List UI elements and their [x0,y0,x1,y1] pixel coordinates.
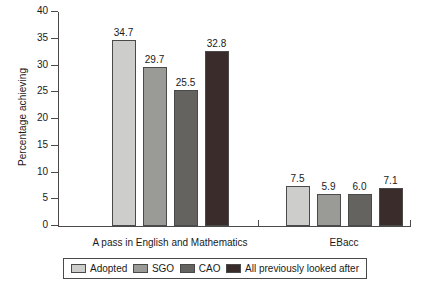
y-axis-tick-label: 40 [37,4,48,17]
bar-value-label: 32.8 [207,38,226,50]
y-axis-tick-label: 15 [37,138,48,151]
y-axis-tick: 5 [51,198,58,199]
y-axis-tick-label: 20 [37,111,48,124]
x-axis-separator [58,220,59,227]
y-axis-tick-label: 5 [42,191,48,204]
bar-value-label: 34.7 [114,27,133,39]
bar-value-label: 5.9 [322,181,336,193]
y-axis-tick-label: 10 [37,165,48,178]
y-axis-tick: 15 [51,145,58,146]
legend-item: All previously looked after [226,263,359,275]
legend-swatch [226,264,241,273]
plot-area: 0510152025303540 34.729.725.532.87.55.96… [58,8,411,230]
bar-value-label: 29.7 [145,54,164,66]
y-axis-tick-label: 25 [37,84,48,97]
x-axis-line [58,226,411,227]
bar: 25.5 [174,90,198,226]
x-axis-separator [410,220,411,227]
y-axis-tick-label: 30 [37,58,48,71]
y-axis-tick-label: 35 [37,31,48,44]
bar: 7.5 [286,186,310,226]
y-axis-line [58,12,59,227]
y-axis-tick: 35 [51,38,58,39]
y-axis-tick: 40 [51,11,58,12]
y-axis-tick: 0 [51,225,58,226]
y-axis-tick-label: 0 [42,218,48,231]
y-axis-tick: 10 [51,172,58,173]
bar-chart: Percentage achieving 0510152025303540 34… [0,0,425,291]
legend-item: Adopted [71,263,127,275]
bar-value-label: 7.5 [291,173,305,185]
legend-label: Adopted [90,263,127,275]
legend-label: CAO [199,263,221,275]
bar-value-label: 6.0 [353,181,367,193]
y-axis-title: Percentage achieving [16,2,30,232]
bar: 32.8 [205,51,229,226]
bar-value-label: 7.1 [384,175,398,187]
x-axis-group-label: A pass in English and Mathematics [92,236,247,249]
bar: 7.1 [379,188,403,226]
bar-value-label: 25.5 [176,77,195,89]
bar: 29.7 [143,67,167,226]
legend-label: All previously looked after [245,263,359,275]
y-axis-tick: 30 [51,65,58,66]
legend-swatch [180,264,195,273]
bar: 34.7 [112,40,136,226]
legend-swatch [133,264,148,273]
legend-label: SGO [152,263,174,275]
legend-item: CAO [180,263,221,275]
legend: AdoptedSGOCAOAll previously looked after [63,258,367,279]
legend-swatch [71,264,86,273]
x-axis-separator [258,220,259,227]
bar: 6.0 [348,194,372,226]
bar: 5.9 [317,194,341,226]
x-axis-group-label: EBacc [330,236,359,249]
y-axis-tick: 20 [51,118,58,119]
legend-item: SGO [133,263,174,275]
y-axis-tick: 25 [51,91,58,92]
